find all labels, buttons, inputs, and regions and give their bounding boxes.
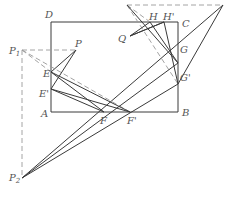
label-p2-sub: 2 (15, 177, 21, 185)
label-f-prime: F' (126, 115, 137, 126)
dashed-p1-f-prime (22, 50, 130, 112)
label-e: E (42, 68, 51, 79)
dashed-q1-h (127, 5, 150, 22)
label-p: P (74, 38, 82, 49)
path-p-e-f-g-h-q (51, 50, 104, 112)
label-d: D (44, 9, 53, 20)
label-a: A (40, 108, 48, 119)
label-h: H (148, 11, 158, 22)
label-p2: P2 (8, 172, 21, 185)
label-h-prime: H' (162, 11, 174, 22)
label-p1-sub: 1 (16, 50, 20, 58)
path-g-h-q (130, 22, 178, 63)
label-g-prime: G' (180, 72, 191, 83)
label-e-prime: E' (38, 88, 49, 99)
label-q: Q (118, 33, 126, 44)
label-c: C (182, 18, 190, 29)
label-f: F (99, 115, 108, 126)
label-b: B (181, 107, 189, 118)
label-g: G (180, 44, 188, 55)
label-p1: P1 (8, 45, 20, 58)
geometry-diagram: D C B A P P1 P2 Q E E' F F' G G' H H' (0, 0, 240, 203)
line-p2-q2 (22, 5, 223, 178)
